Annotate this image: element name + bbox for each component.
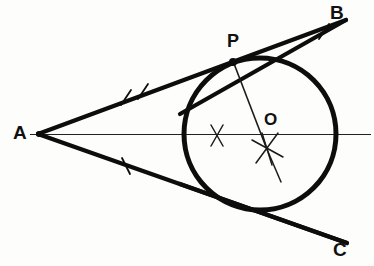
- label-ray-end-c: C: [333, 240, 347, 259]
- vertex-a-marker: [36, 131, 42, 137]
- geometry-figure: A B C P O: [0, 0, 374, 266]
- label-ray-end-b: B: [330, 3, 344, 22]
- label-tangent-point-p: P: [227, 32, 239, 50]
- geometry-canvas: [0, 0, 374, 266]
- ray-ab-overlay: [180, 20, 346, 114]
- ray-ab: [38, 20, 346, 134]
- tangent-point-p-marker: [229, 58, 237, 66]
- construction-mark-center: [252, 133, 283, 182]
- label-circle-center-o: O: [264, 111, 277, 128]
- ray-ac-overlay: [180, 184, 347, 243]
- label-vertex-a: A: [13, 123, 27, 142]
- construction-mark-left: [211, 125, 223, 146]
